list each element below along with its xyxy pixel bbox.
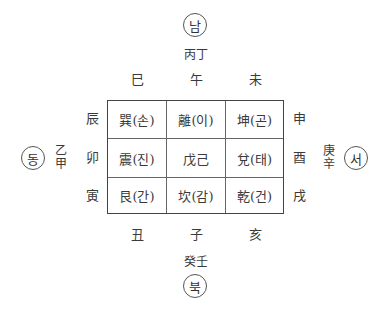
branch-right-2: 酉 bbox=[284, 150, 314, 166]
south-stems: 丙丁 bbox=[180, 47, 212, 63]
north-direction-circle: 북 bbox=[183, 274, 207, 298]
grid-cell-li: 離(이) bbox=[167, 101, 226, 139]
east-direction-circle: 동 bbox=[21, 146, 45, 170]
west-label: 서 bbox=[350, 149, 362, 168]
grid-cell-jin: 震(진) bbox=[108, 139, 167, 178]
north-stems: 癸壬 bbox=[180, 254, 212, 270]
grid-cell-gam: 坎(감) bbox=[167, 178, 226, 213]
branch-left-2: 卯 bbox=[77, 150, 107, 166]
branch-bottom-3: 亥 bbox=[240, 227, 270, 243]
south-direction-circle: 남 bbox=[183, 13, 207, 37]
north-label: 북 bbox=[189, 277, 201, 296]
west-stems: 庚辛 bbox=[322, 145, 336, 171]
branch-top-2: 午 bbox=[181, 72, 211, 88]
trigram-grid: 巽(손) 離(이) 坤(곤) 震(진) 戊己 兌(태) 艮(간) 坎(감) 乾(… bbox=[107, 100, 284, 214]
branch-top-1: 巳 bbox=[122, 72, 152, 88]
grid-cell-center: 戊己 bbox=[167, 139, 226, 178]
grid-cell-gan: 艮(간) bbox=[108, 178, 167, 213]
east-stems: 乙甲 bbox=[54, 145, 68, 171]
branch-left-1: 辰 bbox=[77, 111, 107, 127]
branch-bottom-2: 子 bbox=[181, 227, 211, 243]
branch-right-1: 申 bbox=[284, 111, 314, 127]
south-label: 남 bbox=[189, 16, 201, 35]
east-label: 동 bbox=[27, 149, 39, 168]
grid-cell-son: 巽(손) bbox=[108, 101, 167, 139]
branch-right-3: 戌 bbox=[284, 188, 314, 204]
grid-cell-gon: 坤(곤) bbox=[226, 101, 283, 139]
branch-top-3: 未 bbox=[240, 72, 270, 88]
branch-left-3: 寅 bbox=[77, 188, 107, 204]
grid-cell-geon: 乾(건) bbox=[226, 178, 283, 213]
west-direction-circle: 서 bbox=[344, 146, 368, 170]
branch-bottom-1: 丑 bbox=[122, 227, 152, 243]
grid-cell-tae: 兌(태) bbox=[226, 139, 283, 178]
